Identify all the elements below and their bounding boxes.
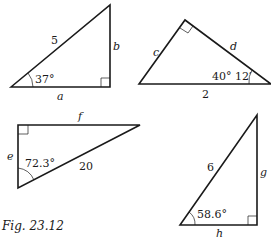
leg-a-label: a — [57, 90, 64, 103]
angle-label: 37° — [35, 73, 55, 86]
triangle-2: c d 2 40° 12′ — [139, 20, 271, 101]
leg-g-label: g — [260, 166, 267, 179]
triangle-4: 6 g h 58.6° — [180, 115, 267, 237]
angle-label: 72.3° — [25, 157, 55, 170]
figure-caption: Fig. 23.12 — [1, 219, 64, 233]
side-d-label: d — [230, 40, 237, 53]
angle-arc — [28, 73, 33, 87]
triangles-diagram: 5 b a 37° c d 2 40° 12′ f e 20 72.3° 6 g… — [0, 0, 271, 237]
leg-h-label: h — [216, 227, 223, 237]
side-e-label: e — [7, 150, 14, 163]
side-c-label: c — [153, 46, 159, 59]
right-angle-marker — [248, 216, 257, 225]
angle-arc — [189, 212, 195, 225]
hypotenuse-label: 5 — [51, 34, 58, 47]
figure-23-12: 5 b a 37° c d 2 40° 12′ f e 20 72.3° 6 g… — [0, 0, 271, 237]
right-angle-marker — [18, 125, 28, 134]
angle-label: 58.6° — [197, 208, 227, 221]
side-f-label: f — [77, 110, 84, 123]
hypotenuse-label: 6 — [207, 161, 214, 174]
right-angle-marker — [180, 26, 193, 33]
leg-b-label: b — [113, 40, 120, 53]
base-label: 2 — [202, 88, 209, 101]
triangle-3: f e 20 72.3° — [7, 110, 140, 188]
angle-label: 40° 12′ — [212, 70, 252, 83]
triangle-1: 5 b a 37° — [11, 5, 120, 103]
hypotenuse-label: 20 — [79, 160, 93, 173]
right-angle-marker — [101, 78, 110, 87]
